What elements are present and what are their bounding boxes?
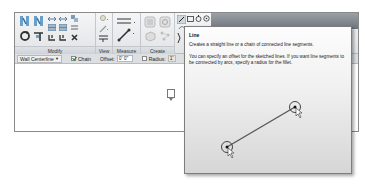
offset-option: Offset: 0' 0" [100,55,133,62]
chain-option[interactable]: Chain [71,56,91,62]
view-marker-icon[interactable] [167,89,175,98]
line-tool-tooltip: Line Creates a straight line or a chain … [184,26,352,174]
view-panel-label: View [96,46,112,54]
measure-panel-label: Measure [113,46,140,54]
align-icon[interactable] [19,15,31,27]
polygon-tool-icon[interactable] [195,15,202,22]
view-panel: View [96,13,113,54]
move-icon[interactable] [48,16,56,22]
placement-dropdown[interactable]: Wall Centerline ▼ [17,55,62,63]
radius-checkbox[interactable] [142,56,147,61]
create-component-icon[interactable] [144,16,156,28]
mirror-icon[interactable] [71,15,78,22]
modify-panel-label: Modify [15,46,95,54]
pick-lines-icon[interactable] [177,32,183,44]
tooltip-extended-description: You can specify an offset for the sketch… [189,54,347,66]
radius-option[interactable]: Radius: 1' [142,55,176,62]
tooltip-description: Creates a straight line or a chain of co… [189,42,347,48]
chain-label: Chain [78,56,91,62]
line-illustration-icon [185,79,353,173]
trim-extend-icon[interactable] [33,30,45,42]
offset-icon[interactable] [33,15,45,27]
radius-input[interactable]: 1' [168,55,176,62]
chevron-down-icon: ▼ [55,56,59,61]
measure-panel: Measure [113,13,141,54]
rotate-icon[interactable] [19,30,31,42]
create-panel: Create [141,13,175,54]
circle-tool-icon[interactable] [203,15,210,22]
create-group-icon[interactable] [144,30,156,42]
offset-label: Offset: [100,56,115,62]
measure-between-references-icon[interactable] [116,17,136,26]
placement-value: Wall Centerline [20,56,54,62]
create-assembly-icon[interactable] [159,30,171,42]
create-panel-label: Create [141,46,174,54]
tooltip-title: Line [189,32,347,38]
split-icon[interactable] [48,34,56,41]
hide-element-icon[interactable] [99,15,109,23]
pin-icon[interactable] [71,25,78,30]
array-icon[interactable] [48,24,56,31]
modify-panel: Modify [15,13,96,54]
line-tool-icon[interactable] [177,15,186,24]
offset-input[interactable]: 0' 0" [117,55,133,62]
chain-checkbox[interactable] [71,56,76,61]
create-similar-icon[interactable] [159,16,171,28]
aligned-dimension-icon[interactable] [117,28,135,42]
radius-label: Radius: [149,56,166,62]
copy-icon[interactable] [59,16,67,22]
delete-icon[interactable] [71,34,78,41]
scale-icon[interactable] [59,24,67,31]
split-gap-icon[interactable] [59,34,67,41]
linework-icon[interactable] [99,25,109,33]
thin-lines-icon[interactable] [99,35,108,42]
rectangle-tool-icon[interactable] [187,16,194,22]
